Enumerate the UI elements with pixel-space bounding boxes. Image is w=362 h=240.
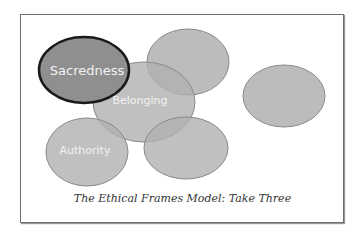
ellipse-bottom-middle bbox=[144, 117, 228, 179]
belonging-label: Belonging bbox=[112, 94, 167, 107]
ellipse-right bbox=[243, 65, 325, 127]
sacredness-label: Sacredness bbox=[50, 63, 125, 78]
diagram-caption: The Ethical Frames Model: Take Three bbox=[20, 192, 345, 205]
ellipse-authority: Authority bbox=[46, 118, 128, 186]
ellipse-sacredness: Sacredness bbox=[39, 37, 129, 103]
authority-label: Authority bbox=[60, 144, 111, 157]
